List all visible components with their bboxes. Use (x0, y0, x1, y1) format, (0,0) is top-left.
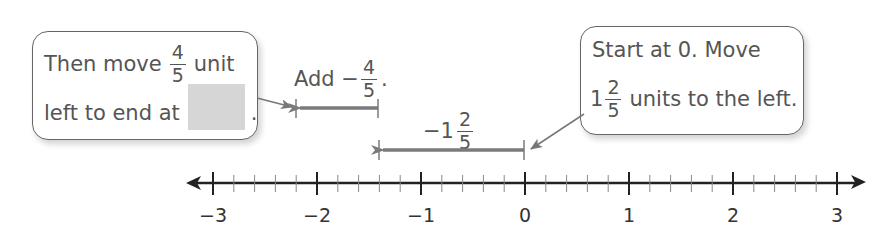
tick-label: −1 (407, 204, 435, 226)
tick-label: −3 (199, 204, 227, 226)
number-line (186, 172, 866, 195)
tick-label: 0 (519, 204, 531, 226)
tick-label: 3 (831, 204, 843, 226)
left-callout-pointer (257, 98, 292, 107)
move-arrow (379, 140, 524, 160)
tick-label: −2 (303, 204, 331, 226)
number-line-diagram (0, 0, 875, 244)
tick-label: 2 (727, 204, 739, 226)
add-arrow (296, 99, 378, 118)
tick-label: 1 (623, 204, 635, 226)
right-callout-pointer (531, 114, 584, 149)
